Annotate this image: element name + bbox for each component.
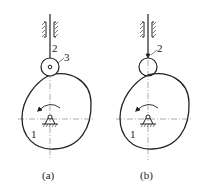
label-roller: 3 — [64, 51, 70, 63]
label-follower: 2 — [157, 42, 163, 54]
figure-b: 2 1 (b) — [116, 14, 191, 182]
caption-a: (a) — [42, 169, 55, 182]
label-cam: 1 — [130, 128, 136, 140]
label-follower: 2 — [52, 42, 58, 54]
caption-b: (b) — [140, 169, 153, 182]
label-cam: 1 — [31, 128, 37, 140]
roller-pin — [48, 65, 52, 69]
figure-a: 3 2 1 (a) — [18, 14, 93, 182]
cam-mechanism-diagram: 3 2 1 (a) — [0, 0, 202, 194]
rotation-arrow-icon — [137, 104, 158, 110]
rotation-arrow-icon — [39, 104, 60, 110]
